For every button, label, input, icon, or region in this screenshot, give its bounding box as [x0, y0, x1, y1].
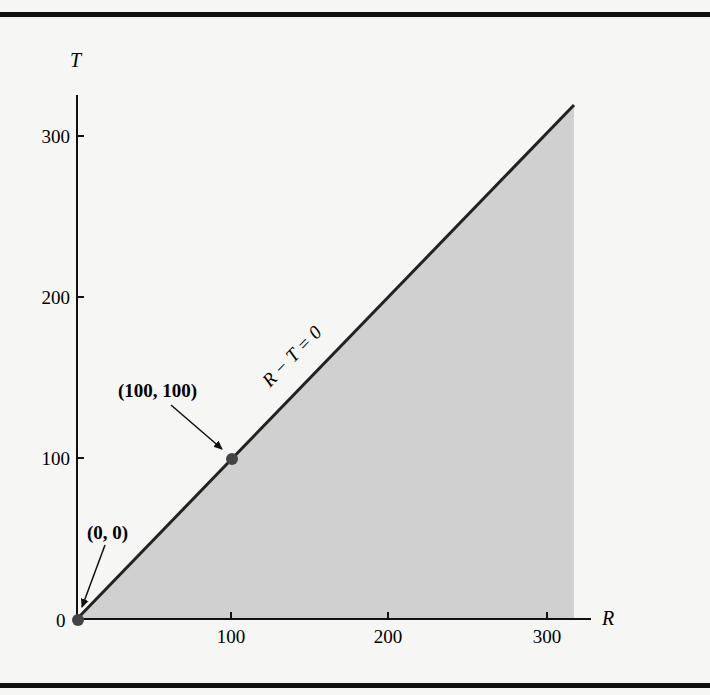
y-tick-label-100: 100	[42, 448, 71, 469]
x-tick-label-200: 200	[374, 626, 403, 647]
chart: T R 0 300 200 100 100 200 300 (100, 100)…	[0, 0, 710, 695]
arrow-to-100-100	[171, 405, 222, 449]
point-origin	[72, 614, 84, 626]
origin-label: 0	[56, 610, 66, 631]
y-tick-label-300: 300	[42, 126, 71, 147]
axis-label-t: T	[70, 49, 83, 71]
y-tick-label-200: 200	[42, 287, 71, 308]
point-label-origin: (0, 0)	[87, 522, 128, 544]
x-tick-label-300: 300	[533, 626, 562, 647]
point-100-100	[226, 453, 238, 465]
axis-label-r: R	[601, 607, 614, 629]
x-tick-label-100: 100	[217, 626, 246, 647]
point-label-100-100: (100, 100)	[118, 380, 197, 402]
